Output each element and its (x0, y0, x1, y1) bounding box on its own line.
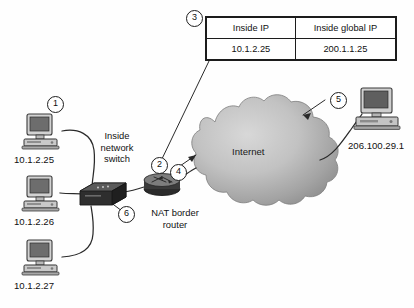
network-switch-icon (76, 178, 130, 208)
host-top (20, 112, 64, 156)
computer-icon (352, 86, 404, 132)
table-header-row: Inside IP Inside global IP (207, 18, 396, 39)
nat-translation-table: Inside IP Inside global IP 10.1.2.25 200… (205, 16, 397, 61)
host-middle-ip-label: 10.1.2.26 (14, 216, 54, 227)
header-inside-ip: Inside IP (207, 18, 296, 39)
computer-icon (20, 112, 64, 152)
computer-icon (20, 238, 64, 278)
cell-inside-ip: 10.1.2.25 (207, 39, 296, 60)
host-remote (352, 86, 404, 136)
host-bottom (20, 238, 64, 282)
table-row: 10.1.2.25 200.1.1.25 (207, 39, 396, 60)
callout-4: 4 (170, 164, 187, 181)
host-middle (20, 174, 64, 218)
host-top-ip-label: 10.1.2.25 (14, 154, 54, 165)
header-inside-global-ip: Inside global IP (295, 18, 395, 39)
link-host-bottom-switch (62, 206, 93, 257)
host-remote-ip-label: 206.100.29.1 (348, 140, 404, 151)
cell-inside-global-ip: 200.1.1.25 (295, 39, 395, 60)
callout-1: 1 (47, 96, 64, 113)
computer-icon (20, 174, 64, 214)
network-diagram: Internet (0, 0, 414, 308)
router-label: NAT border router (138, 207, 212, 230)
callout-2: 2 (151, 157, 168, 174)
callout-5: 5 (330, 92, 347, 109)
switch-label: Inside network switch (94, 130, 140, 165)
callout-3: 3 (186, 10, 203, 27)
leader-callout5-arrow (303, 100, 325, 115)
leader-table-to-callout2 (160, 59, 210, 163)
callout-6: 6 (118, 206, 135, 223)
host-bottom-ip-label: 10.1.2.27 (14, 280, 54, 291)
